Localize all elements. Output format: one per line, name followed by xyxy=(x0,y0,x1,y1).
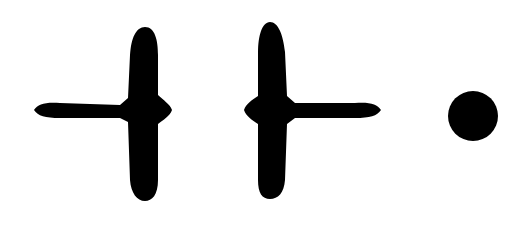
dot-shape xyxy=(448,91,498,141)
glyph-canvas xyxy=(0,0,524,229)
right-tee-shape xyxy=(244,22,381,199)
left-tee-shape xyxy=(34,27,172,201)
